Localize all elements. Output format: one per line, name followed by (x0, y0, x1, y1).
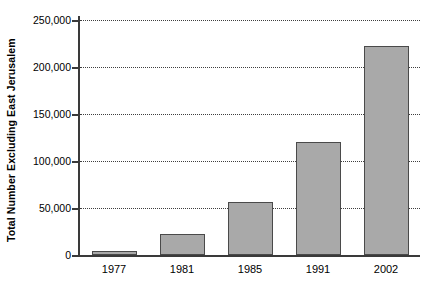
y-tick-mark (72, 114, 80, 116)
bar-1985[interactable] (228, 202, 273, 255)
x-tick-label-2002: 2002 (374, 264, 398, 275)
y-tick-label: 50,000 (39, 203, 71, 214)
x-tick-label-1981: 1981 (170, 264, 194, 275)
y-tick-mark (72, 20, 80, 22)
bar-1991[interactable] (296, 142, 341, 255)
bar-1977[interactable] (92, 251, 137, 255)
y-tick-label: 100,000 (33, 156, 71, 167)
y-tick-label: 0 (65, 250, 71, 261)
x-tick-label-1991: 1991 (306, 264, 330, 275)
bar-chart: Total Number Excluding East Jerusalem 05… (0, 0, 436, 297)
y-tick-mark (72, 255, 80, 257)
bar-1981[interactable] (160, 234, 205, 255)
y-tick-mark (72, 161, 80, 163)
y-tick-label: 250,000 (33, 15, 71, 26)
y-axis-title: Total Number Excluding East Jerusalem (0, 0, 22, 280)
y-axis-title-label: Total Number Excluding East Jerusalem (6, 38, 17, 242)
y-tick-label: 200,000 (33, 62, 71, 73)
y-tick-mark (72, 67, 80, 69)
x-tick-label-1977: 1977 (102, 264, 126, 275)
bar-2002[interactable] (364, 46, 409, 255)
x-axis-line (72, 255, 420, 257)
x-tick-label-1985: 1985 (238, 264, 262, 275)
bars-group (80, 20, 420, 255)
y-tick-label: 150,000 (33, 109, 71, 120)
plot-area: 050,000100,000150,000200,000250,000 1977… (78, 20, 420, 255)
y-tick-mark (72, 208, 80, 210)
